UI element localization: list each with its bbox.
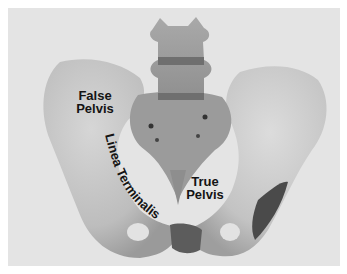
- pelvis-illustration: False Pelvis True Pelvis Linea Terminali…: [0, 0, 347, 274]
- false-pelvis-label-line2: Pelvis: [76, 101, 114, 116]
- intervertebral-disc: [158, 57, 204, 65]
- true-pelvis-label-line2: Pelvis: [186, 187, 224, 202]
- right-obturator-foramen: [220, 223, 240, 241]
- left-obturator-foramen: [127, 223, 149, 241]
- pubic-symphysis: [170, 224, 202, 254]
- intervertebral-disc: [158, 93, 204, 100]
